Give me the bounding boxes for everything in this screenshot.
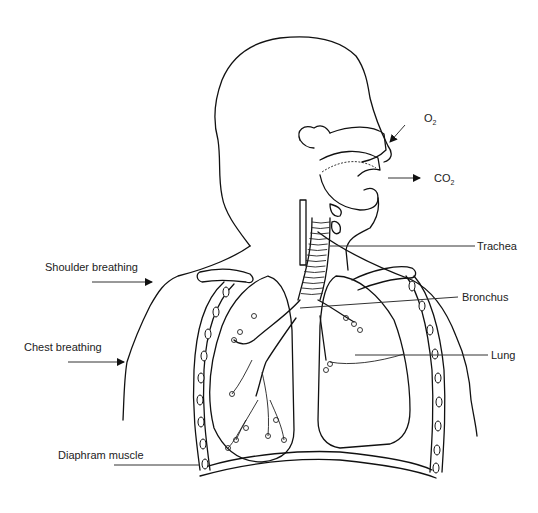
rib-cell bbox=[435, 421, 441, 431]
rib-cell bbox=[200, 439, 206, 449]
trachea-structure bbox=[298, 218, 330, 300]
rib-cell bbox=[198, 417, 204, 427]
alveolus bbox=[324, 368, 329, 373]
bronchus-label: Bronchus bbox=[462, 291, 509, 303]
trachea-ring bbox=[301, 294, 323, 295]
rib-cell bbox=[205, 329, 211, 339]
rib-cell bbox=[419, 301, 425, 311]
trachea-ring bbox=[305, 266, 325, 267]
clavicles bbox=[197, 267, 415, 290]
trachea-label: Trachea bbox=[477, 240, 518, 252]
rib-cell bbox=[435, 373, 441, 383]
rib-cell bbox=[201, 351, 207, 361]
trachea-ring bbox=[309, 239, 328, 240]
rib-cell bbox=[432, 349, 438, 359]
trachea-ring bbox=[302, 288, 323, 289]
co2-label: CO2 bbox=[434, 172, 455, 186]
rib-cell bbox=[223, 287, 229, 297]
labels: O2 CO2 Trachea Bronchus Lung Shoulder br… bbox=[24, 112, 518, 461]
annotations bbox=[68, 125, 488, 465]
rib-cell bbox=[433, 463, 439, 473]
diaphragm bbox=[200, 452, 436, 478]
trachea-ring bbox=[311, 228, 329, 229]
alveolus bbox=[358, 328, 363, 333]
o2-arrow bbox=[390, 125, 405, 142]
trachea-ring bbox=[304, 272, 325, 273]
respiratory-diagram: O2 CO2 Trachea Bronchus Lung Shoulder br… bbox=[0, 0, 538, 513]
rib-cell bbox=[213, 307, 219, 317]
chest-breathing-label: Chest breathing bbox=[24, 341, 102, 353]
rib-cell bbox=[409, 281, 415, 291]
rib-cell bbox=[436, 397, 442, 407]
alveolus bbox=[274, 418, 279, 423]
alveolus bbox=[238, 330, 243, 335]
trachea-ring bbox=[312, 222, 330, 223]
rib-cell bbox=[427, 325, 433, 335]
lungs bbox=[210, 276, 410, 462]
trachea-ring bbox=[306, 261, 326, 262]
alveolus bbox=[244, 426, 249, 431]
trachea-ring bbox=[303, 277, 324, 278]
rib-cell bbox=[202, 459, 208, 469]
trachea-ring bbox=[309, 244, 328, 245]
trachea-ring bbox=[303, 283, 324, 284]
lung-label: Lung bbox=[491, 349, 515, 361]
rib-cell bbox=[197, 395, 203, 405]
shoulder-breathing-label: Shoulder breathing bbox=[45, 261, 138, 273]
esophagus bbox=[300, 200, 306, 265]
diaphragm-muscle-label: Diaphram muscle bbox=[58, 449, 144, 461]
trachea-ring bbox=[307, 255, 327, 256]
rib-cell bbox=[434, 445, 440, 455]
o2-label: O2 bbox=[424, 112, 437, 126]
rib-cell bbox=[198, 373, 204, 383]
alveolus bbox=[252, 314, 257, 319]
trachea-ring bbox=[308, 250, 327, 251]
